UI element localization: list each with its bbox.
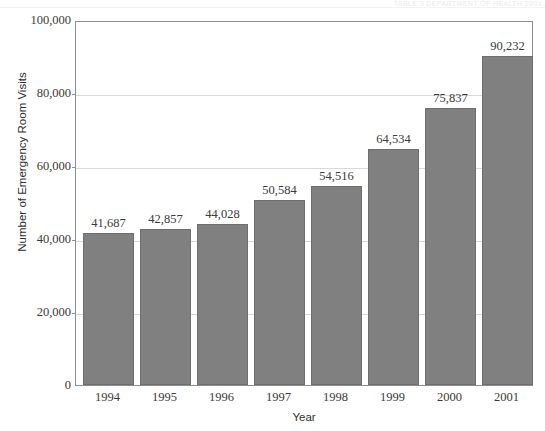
bar-value-label: 90,232 bbox=[470, 39, 545, 54]
cut-off-running-header: TABLE 3 DEPARTMENT OF HEALTH 2001 bbox=[284, 0, 542, 7]
bar[interactable] bbox=[254, 200, 305, 385]
y-axis-ticks: 020,00040,00060,00080,000100,000 bbox=[3, 0, 71, 431]
bar[interactable] bbox=[83, 233, 134, 385]
bar-value-label: 54,516 bbox=[299, 169, 374, 184]
bar[interactable] bbox=[482, 56, 533, 385]
y-axis-tick-label: 20,000 bbox=[7, 305, 71, 320]
bar[interactable] bbox=[368, 149, 419, 385]
bar[interactable] bbox=[311, 186, 362, 385]
bar-value-label: 50,584 bbox=[242, 183, 317, 198]
bar-value-label: 75,837 bbox=[413, 91, 488, 106]
bar-value-label: 44,028 bbox=[185, 207, 260, 222]
bar-series: 41,68742,85744,02850,58454,51664,53475,8… bbox=[76, 22, 532, 385]
y-axis-tick-label: 100,000 bbox=[7, 13, 71, 28]
bar[interactable] bbox=[425, 108, 476, 385]
y-axis-title: Number of Emergency Room Visits bbox=[16, 47, 28, 277]
plot-area: 41,68742,85744,02850,58454,51664,53475,8… bbox=[75, 21, 533, 386]
bar[interactable] bbox=[140, 229, 191, 385]
x-axis-tick-label: 2001 bbox=[471, 390, 542, 405]
x-axis-title: Year bbox=[75, 411, 533, 423]
bar-value-label: 64,534 bbox=[356, 132, 431, 147]
header-divider bbox=[0, 7, 545, 8]
y-axis-tick-label: 0 bbox=[7, 378, 71, 393]
bar[interactable] bbox=[197, 224, 248, 385]
